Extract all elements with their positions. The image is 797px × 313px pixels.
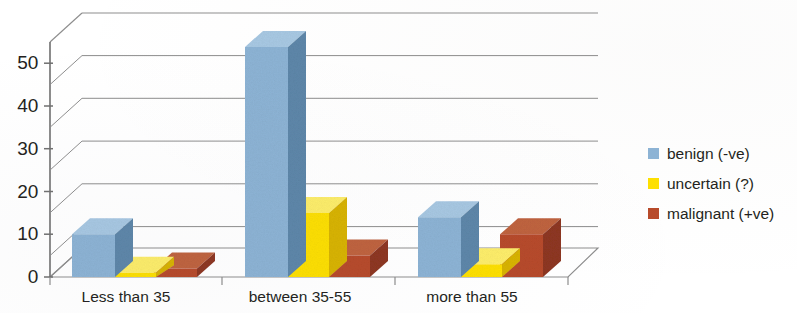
- y-axis-label-10: 10: [0, 224, 38, 243]
- x-axis-label-between-35-55: between 35-55: [230, 288, 370, 305]
- legend-swatch-uncertain-icon: [648, 178, 659, 189]
- legend-swatch-malignant-icon: [648, 208, 659, 219]
- chart-container: 50 40 30 20 10 0 Less than 35 between 35…: [0, 0, 797, 313]
- y-axis-label-30: 30: [0, 139, 38, 158]
- legend-label-uncertain: uncertain (?): [667, 175, 754, 192]
- x-axis-label-more-than-55: more than 55: [402, 288, 542, 305]
- x-axis-label-less-than-35: Less than 35: [56, 288, 196, 305]
- legend-label-benign: benign (-ve): [667, 145, 750, 162]
- y-axis-label-50: 50: [0, 53, 38, 72]
- legend-item-malignant[interactable]: malignant (+ve): [648, 198, 797, 228]
- legend-item-uncertain[interactable]: uncertain (?): [648, 168, 797, 198]
- bar-between-35-55-benign: [245, 31, 306, 277]
- bar-more-than-55-benign: [418, 201, 479, 277]
- y-axis-label-20: 20: [0, 182, 38, 201]
- legend-item-benign[interactable]: benign (-ve): [648, 138, 797, 168]
- chart-legend: benign (-ve) uncertain (?) malignant (+v…: [648, 138, 797, 228]
- y-axis-label-40: 40: [0, 96, 38, 115]
- bar-less-than-35-benign: [72, 218, 133, 277]
- legend-swatch-benign-icon: [648, 148, 659, 159]
- y-axis-label-0: 0: [0, 267, 38, 286]
- legend-label-malignant: malignant (+ve): [667, 205, 774, 222]
